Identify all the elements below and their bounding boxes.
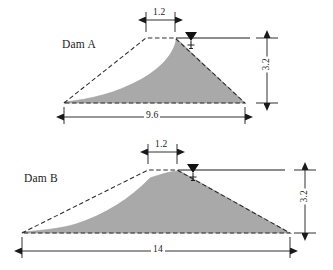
dam-a-base-width-value: 9.6 [144,110,160,120]
dam-a-water-table-symbol [176,32,250,49]
dam-b-crest-width-value: 1.2 [153,139,169,149]
dam-b-height-value: 3.2 [299,188,309,204]
dam-b-saturated-zone [22,170,290,233]
dam-a-label: Dam A [62,38,96,50]
dam-b-group [22,144,316,258]
dam-b-base-width-value: 14 [151,244,165,254]
dam-a-group [64,12,278,124]
dam-a-height-value: 3.2 [261,56,271,72]
dam-a-crest-width-value: 1.2 [151,7,167,17]
dam-b-water-table-symbol [178,164,285,181]
dam-b-label: Dam B [24,172,58,184]
dam-cross-section-figure [0,0,333,270]
